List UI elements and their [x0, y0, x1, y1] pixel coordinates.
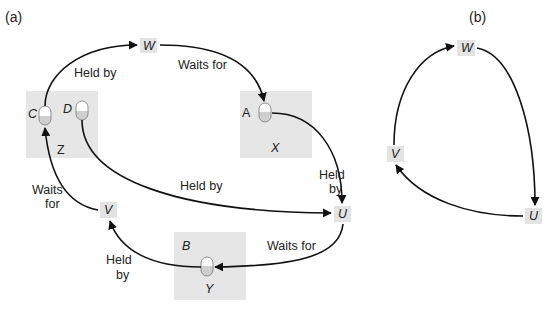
object-a-cylinder	[259, 103, 271, 122]
panel-b-process-w-label: W	[461, 41, 474, 55]
process-u-label: U	[338, 207, 348, 221]
edge-label-u-b: Waits for	[267, 239, 316, 253]
process-w-label: W	[143, 39, 156, 53]
edge-label-a-u-line2: by	[329, 182, 343, 196]
edge-label-w-a: Waits for	[178, 58, 227, 72]
edge-label-v-c-line1: Waits	[32, 183, 63, 197]
edge-label-c-w: Held by	[74, 66, 117, 80]
object-b-label: B	[182, 239, 190, 253]
panel-b-edge-v-w	[394, 46, 454, 145]
panel-b-edge-w-u	[477, 48, 535, 205]
object-d-label: D	[63, 102, 72, 116]
panel-b-edge-u-v	[396, 165, 523, 216]
site-x-label: X	[270, 141, 280, 155]
edge-label-a-u-line1: Held	[319, 168, 345, 182]
object-b-cylinder	[201, 257, 213, 276]
edge-label-b-v-line2: by	[116, 268, 130, 282]
panel-a-label: (a)	[5, 9, 22, 25]
object-d-cylinder	[76, 101, 88, 120]
site-z-label: Z	[57, 143, 65, 157]
edge-label-d-u: Held by	[180, 179, 223, 193]
object-c-label: C	[28, 107, 38, 121]
panel-b-process-u-label: U	[529, 209, 539, 223]
edge-label-v-c-line2: for	[45, 197, 60, 211]
deadlock-diagram: (a) (b) C D Z A X B Y W U V Held by Wait…	[0, 0, 558, 317]
object-a-label: A	[242, 106, 251, 120]
edge-label-b-v-line1: Held	[106, 253, 132, 267]
panel-b-label: (b)	[469, 9, 486, 25]
object-c-cylinder	[39, 106, 51, 125]
